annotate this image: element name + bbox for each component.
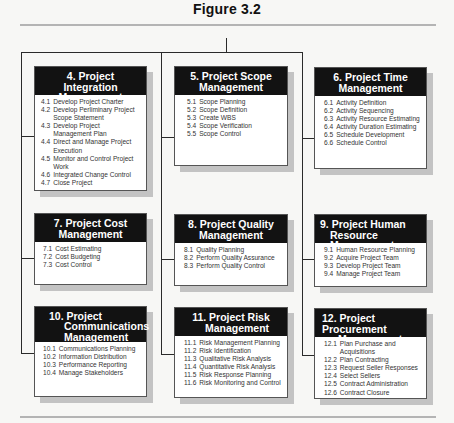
area-header: 4. Project Integration Management xyxy=(35,67,146,95)
process-item: 11.3Qualitative Risk Analysis xyxy=(184,355,281,363)
area-title: Management xyxy=(181,82,281,93)
area-header: 11. Project Risk Management xyxy=(175,308,287,336)
area-title: Management xyxy=(321,83,420,94)
process-item: 10.2Information Distribution xyxy=(43,353,140,361)
branch-connector-7 xyxy=(21,258,34,259)
process-item: 12.5Contract Administration xyxy=(324,380,420,388)
process-list: 8.1Quality Planning 8.2Perform Quality A… xyxy=(175,243,287,274)
process-item: 11.2Risk Identification xyxy=(184,347,281,355)
process-item: 5.1Scope Planning xyxy=(187,98,281,106)
process-item: 6.1Activity Definition xyxy=(324,99,420,107)
branch-connector-5 xyxy=(161,137,174,138)
process-item: 4.3Develop Project Management Plan xyxy=(41,122,140,138)
area-title: 11. Project Risk xyxy=(181,312,281,323)
process-item: 6.6Schedule Control xyxy=(324,139,420,147)
process-item: 11.1Risk Management Planning xyxy=(184,339,281,347)
process-item: 6.3Activity Resource Estimating xyxy=(324,115,420,123)
branch-connector-8 xyxy=(161,259,174,260)
process-item: 10.1Communications Planning xyxy=(43,345,140,353)
knowledge-area-8-quality: 8. Project Quality Management 8.1Quality… xyxy=(174,214,288,286)
bottom-divider xyxy=(20,416,436,418)
knowledge-area-5-scope: 5. Project Scope Management 5.1Scope Pla… xyxy=(174,66,288,166)
branch-connector-6 xyxy=(302,138,314,139)
column-2-spine xyxy=(161,52,162,355)
area-title: 5. Project Scope xyxy=(181,71,281,82)
process-item: 6.2Activity Sequencing xyxy=(324,107,420,115)
top-divider xyxy=(20,24,436,26)
knowledge-area-10-communications: 10. Project Communications Management 10… xyxy=(34,306,147,397)
process-item: 12.6Contract Closure xyxy=(324,389,420,397)
column-3-spine xyxy=(302,52,303,356)
knowledge-area-7-cost: 7. Project Cost Management 7.1Cost Estim… xyxy=(34,213,147,285)
process-item: 4.6Integrated Change Control xyxy=(41,171,140,179)
process-item: 11.6Risk Monitoring and Control xyxy=(184,379,281,387)
process-list: 11.1Risk Management Planning 11.2Risk Id… xyxy=(175,336,287,392)
process-item: 12.2Plan Contracting xyxy=(324,356,420,364)
process-item: 9.2Acquire Project Team xyxy=(324,254,420,262)
area-header: 9. Project Human Resource Management xyxy=(315,215,426,243)
area-title: 8. Project Quality xyxy=(181,219,281,230)
process-item: 9.1Human Resource Planning xyxy=(324,246,420,254)
process-item: 4.5Monitor and Control Project Work xyxy=(41,155,140,171)
process-item: 5.2Scope Definition xyxy=(187,106,281,114)
process-item: 10.4Manage Stakeholders xyxy=(43,369,140,377)
process-item: 11.5Risk Response Planning xyxy=(184,371,281,379)
process-item: 12.4Select Sellers xyxy=(324,372,420,380)
process-item: 7.3Cost Control xyxy=(43,261,140,269)
area-title: Management xyxy=(41,229,140,240)
process-list: 4.1Develop Project Charter 4.2Develop Pe… xyxy=(35,95,146,191)
process-item: 8.3Perform Quality Control xyxy=(184,262,281,270)
process-item: 4.1Develop Project Charter xyxy=(41,98,140,106)
branch-connector-10 xyxy=(21,353,34,354)
process-item: 4.7Close Project xyxy=(41,179,140,187)
branch-connector-12 xyxy=(302,355,314,356)
process-item: 4.4Direct and Manage Project Execution xyxy=(41,138,140,154)
process-list: 6.1Activity Definition 6.2Activity Seque… xyxy=(315,96,426,152)
process-item: 4.2Develop Perliminary Project Scope Sta… xyxy=(41,106,140,122)
knowledge-area-11-risk: 11. Project Risk Management 11.1Risk Man… xyxy=(174,307,288,398)
process-item: 8.1Quality Planning xyxy=(184,246,281,254)
branch-connector-9 xyxy=(302,259,314,260)
process-list: 9.1Human Resource Planning 9.2Acquire Pr… xyxy=(315,243,426,282)
process-list: 12.1Plan Purchase and Acquisitions 12.2P… xyxy=(315,337,426,401)
process-list: 10.1Communications Planning 10.2Informat… xyxy=(35,342,146,381)
knowledge-area-9-human-resource: 9. Project Human Resource Management 9.1… xyxy=(314,214,427,287)
process-list: 7.1Cost Estimating 7.2Cost Budgeting 7.3… xyxy=(35,242,146,273)
area-title: 7. Project Cost xyxy=(41,218,140,229)
process-item: 8.2Perform Quality Assurance xyxy=(184,254,281,262)
process-item: 9.3Develop Project Team xyxy=(324,262,420,270)
process-item: 6.4Activity Duration Estimating xyxy=(324,123,420,131)
area-header: 12. Project Procurement Management xyxy=(315,309,426,337)
process-item: 5.4Scope Verification xyxy=(187,122,281,130)
area-title: Management xyxy=(49,332,140,342)
area-header: 8. Project Quality Management xyxy=(175,215,287,243)
area-title: 9. Project Human xyxy=(320,219,420,230)
area-header: 6. Project Time Management xyxy=(315,68,426,96)
area-header: 7. Project Cost Management xyxy=(35,214,146,242)
column-1-spine xyxy=(21,52,22,354)
process-item: 5.5Scope Control xyxy=(187,130,281,138)
process-item: 7.2Cost Budgeting xyxy=(43,253,140,261)
process-list: 5.1Scope Planning 5.2Scope Definition 5.… xyxy=(175,95,287,142)
process-item: 10.3Performance Reporting xyxy=(43,361,140,369)
process-item: 5.3Create WBS xyxy=(187,114,281,122)
area-header: 10. Project Communications Management xyxy=(35,307,146,342)
process-item: 12.3Request Seller Responses xyxy=(324,364,420,372)
process-item: 11.4Quantitative Risk Analysis xyxy=(184,363,281,371)
process-item: 7.1Cost Estimating xyxy=(43,245,140,253)
knowledge-area-6-time: 6. Project Time Management 6.1Activity D… xyxy=(314,67,427,169)
top-bus-connector xyxy=(21,52,303,53)
process-item: 6.5Schedule Development xyxy=(324,131,420,139)
area-title: 6. Project Time xyxy=(321,72,420,83)
root-connector xyxy=(226,38,227,53)
area-title: Management xyxy=(181,230,281,241)
knowledge-area-12-procurement: 12. Project Procurement Management 12.1P… xyxy=(314,308,427,399)
process-item: 9.4Manage Project Team xyxy=(324,270,420,278)
branch-connector-11 xyxy=(161,354,174,355)
figure-title: Figure 3.2 xyxy=(0,1,454,17)
area-title: Management xyxy=(181,323,281,334)
area-title: 4. Project Integration xyxy=(41,71,140,92)
branch-connector-4 xyxy=(21,136,34,137)
knowledge-area-4-integration: 4. Project Integration Management 4.1Dev… xyxy=(34,66,147,191)
area-header: 5. Project Scope Management xyxy=(175,67,287,95)
